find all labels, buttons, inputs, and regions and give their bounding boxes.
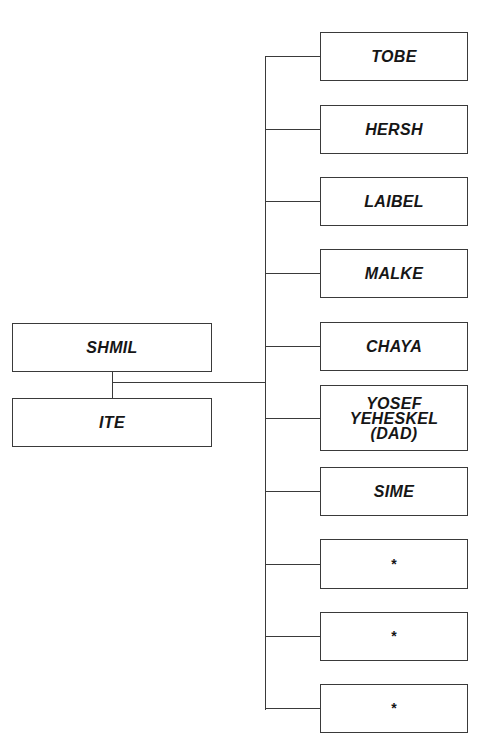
child-name: TOBE <box>371 49 416 64</box>
child-name: * <box>391 629 397 644</box>
parent-name: ITE <box>99 415 125 430</box>
child-name: * <box>391 701 397 716</box>
branch-line <box>265 708 320 709</box>
child-box: LAIBEL <box>320 177 468 226</box>
parent-name: SHMIL <box>86 340 137 355</box>
branch-line <box>265 636 320 637</box>
branch-line <box>265 273 320 274</box>
child-box: SIME <box>320 467 468 516</box>
child-name: * <box>391 557 397 572</box>
branch-line <box>265 56 320 57</box>
child-name: CHAYA <box>366 339 422 354</box>
child-box: MALKE <box>320 249 468 298</box>
parent-box-ite: ITE <box>12 398 212 447</box>
parent-box-shmil: SHMIL <box>12 323 212 372</box>
child-box: * <box>320 612 468 661</box>
child-name: HERSH <box>365 122 423 137</box>
branch-line <box>265 564 320 565</box>
branch-line <box>265 129 320 130</box>
branch-line <box>265 418 320 419</box>
branch-line <box>265 346 320 347</box>
child-name: SIME <box>374 484 414 499</box>
child-name: LAIBEL <box>364 194 424 209</box>
child-name: MALKE <box>365 266 423 281</box>
descent-line <box>112 382 266 383</box>
child-box: TOBE <box>320 32 468 81</box>
branch-line <box>265 491 320 492</box>
sibling-trunk-line <box>265 57 266 710</box>
child-box: CHAYA <box>320 322 468 371</box>
child-box: HERSH <box>320 105 468 154</box>
branch-line <box>265 201 320 202</box>
child-box: YOSEF YEHESKEL (DAD) <box>320 385 468 451</box>
couple-connector <box>112 372 113 398</box>
child-box: * <box>320 539 468 589</box>
child-box: * <box>320 684 468 733</box>
child-name: YOSEF YEHESKEL (DAD) <box>350 396 439 441</box>
